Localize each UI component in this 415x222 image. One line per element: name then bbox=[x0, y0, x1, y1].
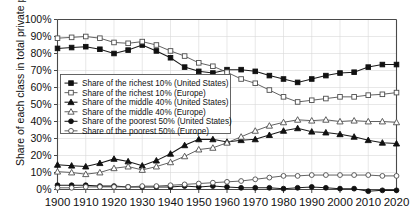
y-tick-label: 60% bbox=[30, 81, 51, 93]
x-tick-label: 1960 bbox=[214, 196, 240, 208]
y-tick-label: 0% bbox=[36, 183, 51, 195]
legend-item-2[interactable]: Share of the middle 40% (United States) bbox=[65, 98, 229, 107]
legend-label: Share of the richest 10% (Europe) bbox=[82, 89, 206, 98]
x-tick-label: 1910 bbox=[73, 196, 99, 208]
y-tick-label: 50% bbox=[30, 98, 51, 110]
line-chart-svg: 0%10%20%30%40%50%60%70%80%90%100% 190019… bbox=[0, 0, 415, 222]
x-tick-label: 2000 bbox=[327, 196, 353, 208]
x-tick-label: 1990 bbox=[299, 196, 325, 208]
legend-label: Share of the middle 40% (United States) bbox=[82, 98, 229, 107]
y-tick-label: 10% bbox=[30, 166, 51, 178]
x-tick-label: 1940 bbox=[158, 196, 184, 208]
y-tick-label: 20% bbox=[30, 149, 51, 161]
x-tick-label: 1920 bbox=[101, 196, 127, 208]
x-tick-label: 1950 bbox=[186, 196, 212, 208]
y-tick-label: 100% bbox=[25, 13, 52, 25]
x-tick-label: 1900 bbox=[45, 196, 71, 208]
legend-label: Share of the poorest 50% (United States) bbox=[82, 117, 232, 126]
y-tick-label: 80% bbox=[30, 47, 51, 59]
x-tick-label: 1980 bbox=[271, 196, 297, 208]
y-tick-label: 40% bbox=[30, 115, 51, 127]
legend-item-0[interactable]: Share of the richest 10% (United States) bbox=[65, 79, 229, 88]
x-tick-label: 1970 bbox=[242, 196, 268, 208]
y-tick-label: 30% bbox=[30, 132, 51, 144]
legend-item-3[interactable]: Share of the middle 40% (Europe) bbox=[65, 108, 207, 117]
x-tick-label: 2010 bbox=[355, 196, 381, 208]
legend-label: Share of the richest 10% (United States) bbox=[82, 79, 229, 88]
legend-item-4[interactable]: Share of the poorest 50% (United States) bbox=[65, 117, 233, 126]
x-tick-label: 1930 bbox=[129, 196, 155, 208]
y-tick-label: 90% bbox=[30, 30, 51, 42]
legend-item-5[interactable]: Share of the poorest 50% (Europe) bbox=[65, 127, 210, 136]
x-axis-ticks: 1900191019201930194019501960197019801990… bbox=[45, 190, 410, 208]
y-axis-ticks: 0%10%20%30%40%50%60%70%80%90%100% bbox=[25, 13, 58, 195]
y-tick-label: 70% bbox=[30, 64, 51, 76]
chart-figure: Share of each class in total private pro… bbox=[0, 0, 415, 222]
x-tick-label: 2020 bbox=[384, 196, 410, 208]
legend-label: Share of the poorest 50% (Europe) bbox=[82, 127, 209, 136]
legend-label: Share of the middle 40% (Europe) bbox=[82, 108, 206, 117]
plot-area-wrapper: 0%10%20%30%40%50%60%70%80%90%100% 190019… bbox=[0, 0, 415, 222]
chart-legend: Share of the richest 10% (United States)… bbox=[61, 75, 233, 136]
legend-item-1[interactable]: Share of the richest 10% (Europe) bbox=[65, 89, 207, 98]
